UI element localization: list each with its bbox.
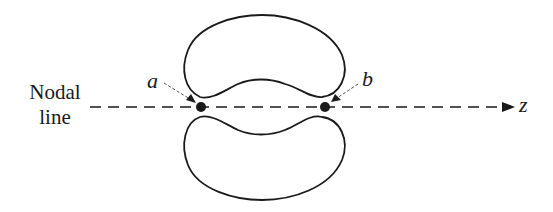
leader-arrowhead-a-icon xyxy=(186,94,196,103)
lower-lobe xyxy=(184,116,345,200)
z-axis-arrowhead-icon xyxy=(502,102,515,112)
z-axis-label: z xyxy=(519,94,528,116)
nodal-label-line1: Nodal xyxy=(22,80,88,105)
nodal-label-line2: line xyxy=(22,105,88,130)
point-b-label: b xyxy=(362,68,373,90)
point-a-dot xyxy=(196,102,206,112)
point-a-label: a xyxy=(147,70,158,92)
upper-lobe xyxy=(184,15,345,98)
nodal-line-diagram: Nodal line a b z xyxy=(0,0,553,212)
leader-line-a xyxy=(164,83,190,99)
point-b-dot xyxy=(320,102,330,112)
nodal-line-label: Nodal line xyxy=(22,80,88,130)
leader-arrowhead-b-icon xyxy=(331,94,341,102)
